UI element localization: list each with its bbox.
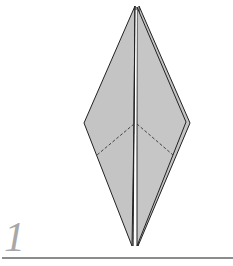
step-number: 1 <box>4 216 25 258</box>
left-flap <box>84 6 135 246</box>
right-front-flap <box>137 7 186 246</box>
kite-base-figure <box>0 0 233 266</box>
divider-rule <box>2 257 233 259</box>
